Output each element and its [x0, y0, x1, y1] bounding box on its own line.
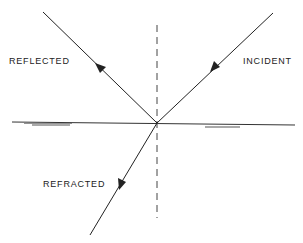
label-refracted: REFRACTED [43, 179, 105, 189]
ray-diagram [0, 0, 303, 243]
label-incident: INCIDENT [243, 56, 292, 66]
refracted-arrow-icon [118, 178, 126, 190]
label-reflected: REFLECTED [9, 56, 70, 66]
incident-arrow-icon [210, 61, 220, 72]
